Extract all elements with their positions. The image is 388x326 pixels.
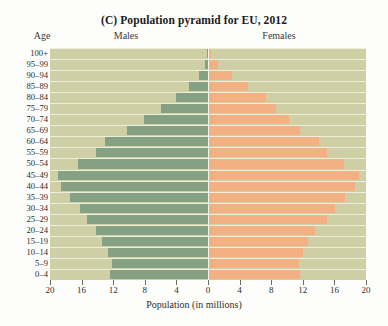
bar-male [110,270,208,279]
bar-female [208,171,359,180]
x-tick-label: 12 [298,285,307,295]
x-tick-label: 20 [362,285,371,295]
bar-female [208,215,327,224]
x-tick-label: 4 [174,285,179,295]
bar-male [102,237,208,246]
chart-title: (C) Population pyramid for EU, 2012 [0,14,388,26]
age-label: 55–59 [2,147,48,158]
females-column-header: Females [248,30,310,41]
age-label: 95–99 [2,59,48,70]
chart-canvas: (C) Population pyramid for EU, 2012 Age … [0,0,388,326]
bar-female [208,182,355,191]
bar-male [58,171,208,180]
bar-male [80,204,208,213]
x-tick-label: 16 [330,285,339,295]
bar-male [127,126,208,135]
x-tick-label: 8 [269,285,274,295]
bar-male [78,159,208,168]
x-tick-label: 4 [237,285,242,295]
bar-female [208,159,344,168]
x-tick-label: 8 [143,285,148,295]
age-label: 0–4 [2,269,48,280]
bar-female [208,148,327,157]
age-label: 5–9 [2,258,48,269]
bar-female [208,226,315,235]
age-label: 25–29 [2,214,48,225]
age-label: 40–44 [2,181,48,192]
bar-male [199,71,208,80]
bar-male [87,215,208,224]
x-tick-label: 12 [109,285,118,295]
bar-female [208,259,299,268]
age-label: 70–74 [2,114,48,125]
age-label: 35–39 [2,192,48,203]
age-axis-labels: 100+95–9990–9485–8980–8475–7970–7465–696… [0,48,48,280]
x-tick-label: 0 [206,285,211,295]
x-axis-title: Population (in millions) [0,299,388,310]
bar-male [176,93,208,102]
bar-female [208,248,303,257]
x-axis-tick-labels: 20161284048121620 [0,285,388,299]
bar-male [161,104,208,113]
age-label: 50–54 [2,158,48,169]
age-label: 90–94 [2,70,48,81]
age-label: 20–24 [2,225,48,236]
bar-male [96,148,208,157]
age-label: 65–69 [2,125,48,136]
bar-male [108,248,208,257]
center-axis-line [208,48,209,280]
age-label: 75–79 [2,103,48,114]
bar-female [208,126,300,135]
age-label: 80–84 [2,92,48,103]
bar-female [208,204,335,213]
bar-male [70,193,208,202]
bar-female [208,60,218,69]
bar-female [208,193,345,202]
bar-male [112,259,208,268]
bar-female [208,82,248,91]
males-column-header: Males [96,30,156,41]
bar-female [208,71,232,80]
bar-female [208,115,289,124]
age-label: 100+ [2,48,48,59]
bar-male [96,226,208,235]
age-column-header: Age [22,30,62,41]
age-label: 30–34 [2,203,48,214]
age-label: 10–14 [2,247,48,258]
bar-female [208,270,300,279]
x-tick-label: 20 [46,285,55,295]
bar-female [208,104,276,113]
bar-male [105,137,208,146]
bar-male [144,115,208,124]
age-label: 15–19 [2,236,48,247]
pyramid-plot-area [50,48,366,280]
bar-female [208,93,266,102]
x-tick-label: 16 [77,285,86,295]
bar-female [208,237,308,246]
bar-female [208,137,319,146]
bar-male [61,182,208,191]
age-label: 45–49 [2,170,48,181]
bar-male [189,82,208,91]
age-label: 60–64 [2,136,48,147]
age-label: 85–89 [2,81,48,92]
